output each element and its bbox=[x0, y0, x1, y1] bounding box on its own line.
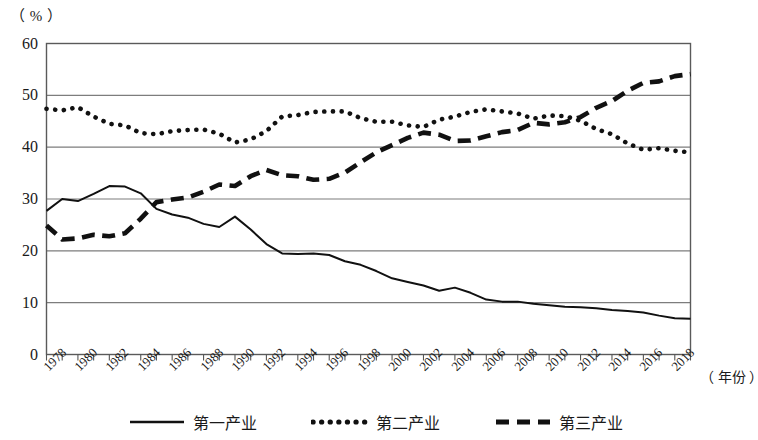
legend-swatch-dotted bbox=[311, 415, 369, 429]
data-series-group bbox=[47, 74, 691, 319]
legend-swatch-solid bbox=[128, 415, 186, 429]
y-axis-tick-label: 10 bbox=[4, 295, 38, 311]
y-axis-tick-label: 60 bbox=[4, 36, 38, 52]
chart-legend: 第一产业第二产业第三产业 bbox=[0, 410, 751, 434]
legend-swatch-dashed bbox=[494, 415, 552, 429]
x-axis-title: （ 年份 ） bbox=[700, 366, 758, 386]
y-axis-tick-label: 40 bbox=[4, 139, 38, 155]
series-line-2 bbox=[47, 107, 691, 152]
y-axis-tick-label: 20 bbox=[4, 243, 38, 259]
legend-item-1[interactable]: 第一产业 bbox=[128, 410, 257, 434]
y-axis-tick-label: 30 bbox=[4, 191, 38, 207]
legend-label: 第二产业 bbox=[376, 410, 440, 434]
y-axis-tick-label: 50 bbox=[4, 87, 38, 103]
series-line-3 bbox=[47, 74, 691, 239]
legend-label: 第三产业 bbox=[559, 410, 623, 434]
y-axis-tick-label: 0 bbox=[4, 347, 38, 363]
legend-item-3[interactable]: 第三产业 bbox=[494, 410, 623, 434]
legend-item-2[interactable]: 第二产业 bbox=[311, 410, 440, 434]
legend-label: 第一产业 bbox=[193, 410, 257, 434]
series-line-1 bbox=[47, 186, 691, 319]
